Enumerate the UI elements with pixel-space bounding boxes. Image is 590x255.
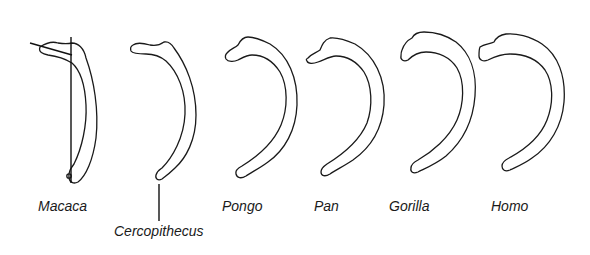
rib-outlines xyxy=(0,0,590,255)
rib-cercopithecus xyxy=(131,42,196,180)
rib-gorilla xyxy=(401,32,475,173)
rib-pan xyxy=(306,38,384,176)
label-cercopithecus: Cercopithecus xyxy=(114,224,204,238)
label-pan: Pan xyxy=(314,199,339,213)
label-macaca: Macaca xyxy=(38,199,87,213)
rib-macaca xyxy=(30,37,97,183)
rib-pongo xyxy=(225,37,297,178)
label-homo: Homo xyxy=(491,199,528,213)
rib-homo xyxy=(479,34,564,171)
label-pongo: Pongo xyxy=(222,199,262,213)
macaca-axis-line-diagonal xyxy=(30,43,72,55)
rib-comparison-figure: Macaca Cercopithecus Pongo Pan Gorilla H… xyxy=(0,0,590,255)
label-gorilla: Gorilla xyxy=(389,199,429,213)
